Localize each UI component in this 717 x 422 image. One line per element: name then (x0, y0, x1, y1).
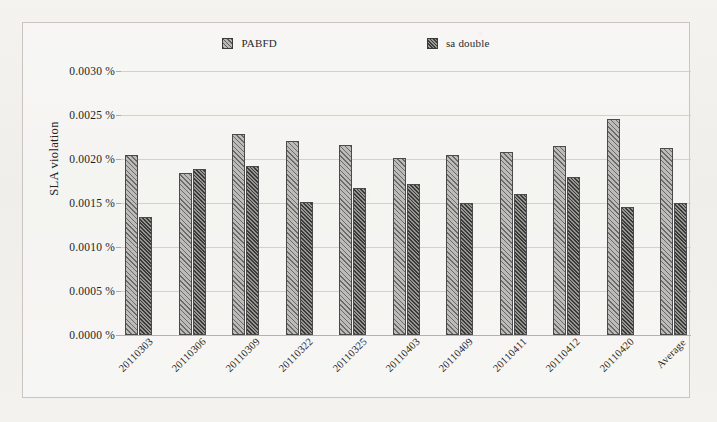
y-axis-tick-labels: 0.0030 %0.0025 %0.0020 %0.0015 %0.0010 %… (49, 71, 115, 335)
y-axis-tickmark (116, 335, 121, 336)
x-axis-tick-label: 20110322 (277, 336, 315, 374)
y-axis-tick-label: 0.0000 % (69, 329, 115, 341)
bar-group (607, 71, 634, 335)
bar-group (553, 71, 580, 335)
y-axis-tick-label: 0.0030 % (69, 65, 115, 77)
x-axis-label-slot: 20110322 (285, 339, 313, 419)
bar-pabfd[interactable] (286, 141, 299, 335)
x-axis-label-slot: 20110303 (125, 339, 153, 419)
x-axis-label-slot: 20110403 (392, 339, 420, 419)
bar-pabfd[interactable] (232, 134, 245, 335)
bar-sa-double[interactable] (621, 207, 634, 335)
x-axis-tick-label: 20110309 (223, 336, 261, 374)
x-axis-label-slot: 20110306 (178, 339, 206, 419)
bar-pabfd[interactable] (607, 119, 620, 335)
legend-label-sa-double: sa double (446, 37, 490, 49)
y-axis-tick-label: 0.0005 % (69, 285, 115, 297)
bar-sa-double[interactable] (567, 177, 580, 335)
legend-swatch-sa-double-icon (427, 38, 438, 49)
bar-pabfd[interactable] (446, 155, 459, 335)
x-axis-tick-label: 20110303 (117, 336, 155, 374)
bar-pabfd[interactable] (553, 146, 566, 335)
bar-group (500, 71, 527, 335)
bar-group (339, 71, 366, 335)
bar-sa-double[interactable] (407, 184, 420, 335)
bar-pabfd[interactable] (660, 148, 673, 335)
legend-swatch-pabfd-icon (222, 38, 233, 49)
bar-pabfd[interactable] (179, 173, 192, 335)
bar-group (232, 71, 259, 335)
x-axis-tick-label: 20110325 (330, 336, 368, 374)
y-axis-tick-label: 0.0020 % (69, 153, 115, 165)
bar-sa-double[interactable] (300, 202, 313, 335)
y-axis-tick-label: 0.0025 % (69, 109, 115, 121)
x-axis-tick-label: 20110420 (597, 336, 635, 374)
y-axis-tick-label: 0.0015 % (69, 197, 115, 209)
chart-legend: PABFD sa double (23, 37, 689, 49)
bar-pabfd[interactable] (125, 155, 138, 335)
bar-sa-double[interactable] (193, 169, 206, 335)
x-axis-tick-label: 20110409 (437, 336, 475, 374)
bar-group (446, 71, 473, 335)
legend-entry-sa-double: sa double (427, 37, 490, 49)
x-axis-label-slot: 20110412 (552, 339, 580, 419)
axis-baseline (121, 335, 691, 336)
bar-sa-double[interactable] (514, 194, 527, 335)
bar-sa-double[interactable] (460, 203, 473, 335)
bar-sa-double[interactable] (246, 166, 259, 335)
bar-groups (121, 71, 691, 335)
bar-sa-double[interactable] (674, 203, 687, 335)
x-axis-tick-label: 20110306 (170, 336, 208, 374)
bar-pabfd[interactable] (500, 152, 513, 335)
x-axis-label-slot: 20110411 (499, 339, 527, 419)
legend-entry-pabfd: PABFD (222, 37, 276, 49)
x-axis-tick-label: 20110411 (491, 336, 529, 374)
x-axis-label-slot: 20110420 (606, 339, 634, 419)
x-axis-label-slot: 20110409 (445, 339, 473, 419)
bar-group (660, 71, 687, 335)
bar-pabfd[interactable] (393, 158, 406, 335)
x-axis-tick-label: 20110403 (384, 336, 422, 374)
bar-group (393, 71, 420, 335)
plot-area: 0.0030 %0.0025 %0.0020 %0.0015 %0.0010 %… (121, 71, 691, 335)
x-axis-label-slot: 20110309 (232, 339, 260, 419)
x-axis-label-slot: 20110325 (339, 339, 367, 419)
x-axis-tick-label: Average (654, 337, 687, 370)
bar-pabfd[interactable] (339, 145, 352, 335)
chart-frame: PABFD sa double SLA violation 0.0030 %0.… (22, 22, 690, 398)
bar-sa-double[interactable] (353, 188, 366, 335)
bar-group (125, 71, 152, 335)
bar-group (179, 71, 206, 335)
bar-group (286, 71, 313, 335)
x-axis-label-slot: Average (659, 339, 687, 419)
x-axis-tick-label: 20110412 (544, 336, 582, 374)
x-axis-tick-labels: 2011030320110306201103092011032220110325… (121, 339, 691, 419)
legend-label-pabfd: PABFD (241, 37, 276, 49)
y-axis-tick-label: 0.0010 % (69, 241, 115, 253)
bar-sa-double[interactable] (139, 217, 152, 335)
